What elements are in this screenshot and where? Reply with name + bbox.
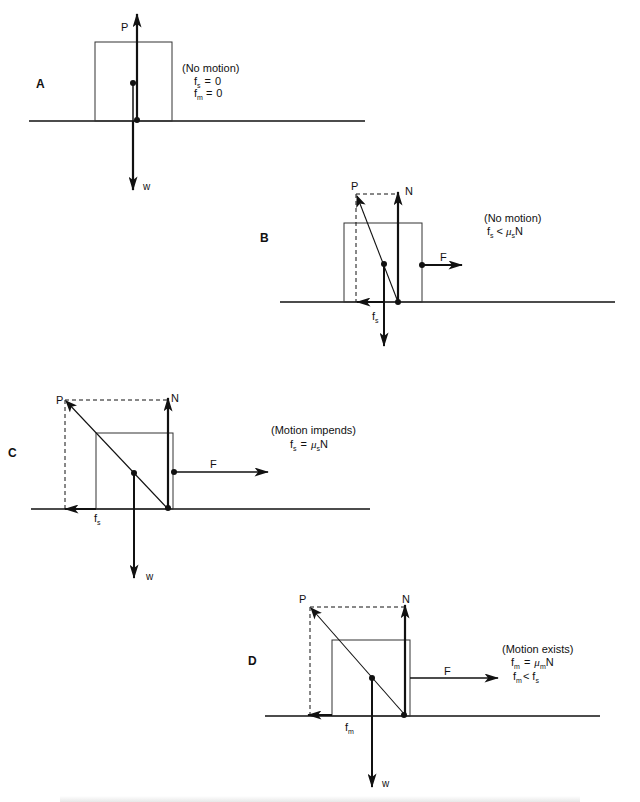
center-of-mass-dot [130,80,136,86]
equation-fs-equals-mus-n: fs=μsN [290,438,328,452]
friction-diagram-figure: A P w (No motion) fs=0 fm=0 B P N F [0,0,640,802]
panel-label-d: D [248,654,257,668]
vector-f-label: F [444,665,451,677]
vector-p-label: P [121,21,128,33]
vector-p-label: P [351,180,358,192]
vector-fm-label: fm [345,721,354,735]
panel-a: A P w (No motion) fs=0 fm=0 [29,14,365,192]
vector-f-label: F [440,251,447,263]
panel-c: C P N F fs w (Motion impends) fs=μsN [8,392,370,582]
vector-w-label: w [142,181,151,192]
equation-fm: fm=0 [194,87,222,101]
vector-n-label: N [171,392,179,404]
panel-b: B P N F fs (No motion) fs<μsN [260,180,615,346]
contact-point-dot [401,712,407,718]
center-of-mass-dot [369,675,375,681]
vector-fs-label: fs [372,310,379,324]
state-label: (No motion) [484,212,541,224]
panel-label-c: C [8,446,17,460]
center-of-mass-dot [381,261,387,267]
panel-label-a: A [36,77,45,91]
state-label: (Motion exists) [502,643,574,655]
vector-w-label: w [381,778,390,789]
vector-n-label: N [405,185,413,197]
panel-d: D P N F fm w (Motion exists) fm=μmN fm<f… [248,593,600,789]
equation-fm-less-fs: fm<fs [513,670,539,684]
vector-p-label: P [56,394,63,406]
state-label: (Motion impends) [271,424,356,436]
vector-w-label: w [145,571,154,582]
vector-p-arrow [66,401,168,509]
cropped-caption [60,796,580,802]
vector-fs-label: fs [94,512,101,526]
state-label: (No motion) [182,62,239,74]
equation-fs-less-mus-n: fs<μsN [487,225,523,239]
center-of-mass-dot [131,470,137,476]
contact-point-dot [395,299,401,305]
panel-label-b: B [260,231,269,245]
svg-text:fm=0: fm=0 [194,87,222,101]
contact-point-dot [165,505,171,511]
equation-fm-equals-mum-n: fm=μmN [511,656,554,670]
vector-p-arrow [311,608,405,715]
vector-f-label: F [210,458,217,470]
vector-n-label: N [402,593,410,605]
vector-p-label: P [299,593,306,605]
vector-p-arrow [357,196,398,302]
